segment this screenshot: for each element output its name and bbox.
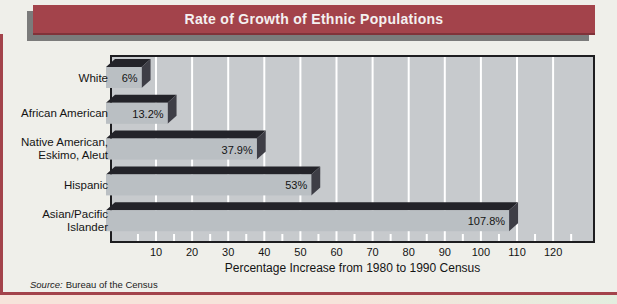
chart-title-bar: Rate of Growth of Ethnic Populations xyxy=(33,5,595,35)
x-tick-label: 40 xyxy=(248,246,280,258)
source-prefix: Source: xyxy=(30,279,63,290)
bar-top-face xyxy=(106,202,518,210)
x-tick-label: 100 xyxy=(465,246,497,258)
source-text: Bureau of the Census xyxy=(66,279,158,290)
bar-chart-canvas: 6%13.2%37.9%53%107.8% xyxy=(112,57,593,241)
bar-value-label: 6% xyxy=(122,72,138,84)
x-tick-label: 90 xyxy=(429,246,461,258)
x-tick-label: 50 xyxy=(284,246,316,258)
plot-area: 6%13.2%37.9%53%107.8% xyxy=(110,55,595,243)
x-axis-ticks: 102030405060708090100110120 xyxy=(112,246,593,260)
x-tick-label: 80 xyxy=(393,246,425,258)
x-tick-label: 20 xyxy=(176,246,208,258)
bar-value-label: 13.2% xyxy=(132,108,163,120)
category-label: Asian/PacificIslander xyxy=(12,208,108,234)
x-tick-label: 70 xyxy=(357,246,389,258)
bar-top-face xyxy=(106,95,177,103)
bar-value-label: 53% xyxy=(285,179,307,191)
bar-value-label: 107.8% xyxy=(468,215,506,227)
page-edge-strip xyxy=(0,295,617,304)
category-axis: WhiteAfrican AmericanNative American,Esk… xyxy=(12,0,108,250)
bar-value-label: 37.9% xyxy=(222,144,253,156)
x-tick-label: 110 xyxy=(501,246,533,258)
category-label: Native American,Eskimo, Aleut xyxy=(12,136,108,162)
chart-title: Rate of Growth of Ethnic Populations xyxy=(185,11,444,27)
bar xyxy=(106,174,311,195)
bar xyxy=(106,210,509,231)
bar-top-face xyxy=(106,131,266,139)
x-tick-label: 30 xyxy=(212,246,244,258)
source-note: Source:Bureau of the Census xyxy=(30,279,158,290)
category-label: Hispanic xyxy=(12,178,108,191)
category-label: African American xyxy=(12,107,108,120)
x-axis-title: Percentage Increase from 1980 to 1990 Ce… xyxy=(112,261,593,275)
x-tick-label: 60 xyxy=(321,246,353,258)
category-label: White xyxy=(12,71,108,84)
left-accent-bar xyxy=(0,34,3,292)
bar-top-face xyxy=(106,166,320,174)
x-tick-label: 10 xyxy=(140,246,172,258)
x-tick-label: 120 xyxy=(537,246,569,258)
